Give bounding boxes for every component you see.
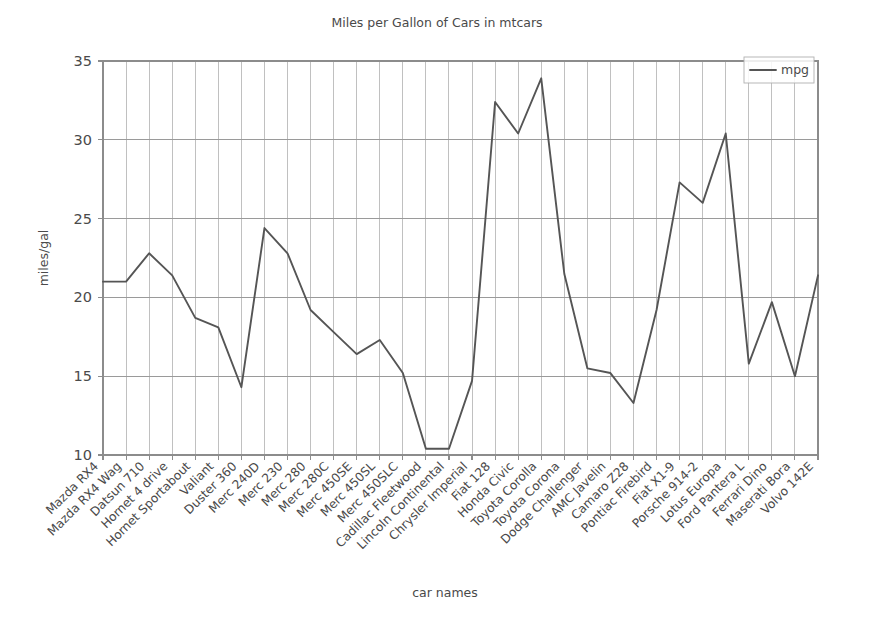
legend-label-mpg: mpg xyxy=(781,62,809,77)
y-tick-label: 15 xyxy=(74,368,92,384)
y-tick-label: 35 xyxy=(74,53,92,69)
y-axis-label: miles/gal xyxy=(36,230,51,287)
chart-figure: Miles per Gallon of Cars in mtcars 10152… xyxy=(0,0,874,631)
y-tick-label: 20 xyxy=(74,289,92,305)
mpg-line-chart: Miles per Gallon of Cars in mtcars 10152… xyxy=(0,0,874,631)
y-tick-label: 30 xyxy=(74,132,92,148)
figure-background xyxy=(0,0,874,631)
y-tick-label: 25 xyxy=(74,211,92,227)
x-axis-label: car names xyxy=(412,585,478,600)
chart-legend[interactable]: mpg xyxy=(744,57,814,83)
chart-title: Miles per Gallon of Cars in mtcars xyxy=(331,15,542,30)
